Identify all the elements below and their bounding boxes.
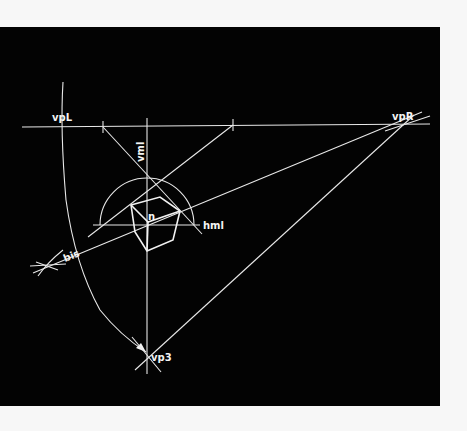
bisector-line <box>33 112 422 273</box>
label-vpL: vpL <box>52 112 73 123</box>
cube <box>131 197 180 251</box>
label-vml: vml <box>135 142 146 162</box>
label-vpR: vpR <box>392 111 414 122</box>
perspective-diagram: vpL vpR vp3 hml n vml bis <box>0 0 467 431</box>
horizon-line <box>22 124 430 127</box>
label-vp3: vp3 <box>151 352 172 363</box>
cube-top-back-edges <box>131 197 180 211</box>
cube-front-vertical-edge <box>147 222 148 251</box>
label-hml: hml <box>203 220 224 231</box>
bis-cross-arc <box>38 250 63 276</box>
label-bis: bis <box>62 247 81 263</box>
label-n: n <box>148 211 155 222</box>
vpR-to-vp3-line <box>135 115 414 370</box>
cube-top-front-edges <box>131 205 180 222</box>
